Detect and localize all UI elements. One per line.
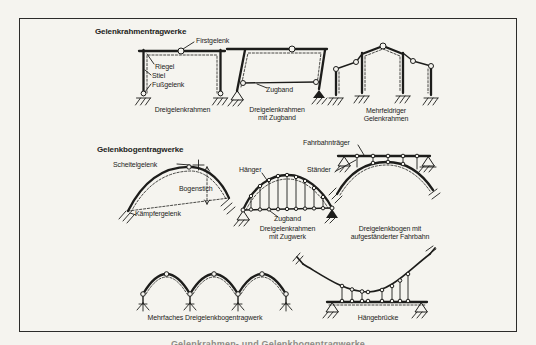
arch-members bbox=[243, 175, 332, 210]
roller-support bbox=[419, 157, 436, 172]
mehrfach-bogen-caption: Mehrfaches Dreigelenkbogentragwerk bbox=[127, 314, 283, 322]
cropped-figure-caption: Gelenkrahmen- und Gelenkbogentragwerke bbox=[0, 339, 536, 345]
support-hatch bbox=[136, 98, 228, 105]
frames-section-heading: Gelenkrahmentragwerke bbox=[95, 27, 186, 36]
deck-and-arch bbox=[337, 156, 433, 195]
scheitel-hinge bbox=[187, 165, 191, 169]
scanned-page: Gelenkrahmentragwerke Gelenkbogentragwer… bbox=[0, 0, 536, 345]
support-hatch bbox=[328, 96, 438, 105]
frame-members bbox=[336, 46, 431, 95]
stiel-label: Stiel bbox=[152, 72, 165, 79]
mehrfeldrig-drawing bbox=[328, 40, 445, 110]
hinge-circles bbox=[340, 272, 410, 303]
bogen-fahrbahn-caption: Dreigelenkbogen mit aufgeständerter Fahr… bbox=[340, 225, 440, 240]
caption-line: mit Zugwerk bbox=[243, 233, 332, 241]
hinge-circles bbox=[241, 46, 319, 86]
caption-line: Dreigelenkrahmen bbox=[243, 225, 332, 233]
pinned-support bbox=[323, 303, 338, 318]
mehrfach-bogen-drawing bbox=[136, 266, 300, 314]
caption-line: Mehrfeldriger bbox=[342, 107, 430, 115]
anchor-hatch bbox=[293, 246, 436, 264]
staender-label: Ständer bbox=[307, 166, 331, 173]
rahmen-zugband-caption: Dreigelenkrahmen mit Zugband bbox=[233, 106, 321, 121]
dreigelenkrahmen-caption: Dreigelenkrahmen bbox=[130, 106, 235, 114]
hangers bbox=[251, 175, 323, 209]
caption-line: Gelenkrahmen bbox=[342, 115, 430, 123]
hinge-circles bbox=[334, 43, 434, 72]
zugband-label-2: Zugband bbox=[274, 215, 301, 222]
arch-members bbox=[143, 274, 286, 294]
arches-section-heading: Gelenkbogentragwerke bbox=[97, 145, 183, 154]
caption-line: Dreigelenkrahmen bbox=[233, 106, 321, 114]
caption-line: Dreigelenkbogen mit bbox=[340, 225, 440, 233]
pinned-support bbox=[234, 211, 249, 226]
fussgelenk-label: Fußgelenk bbox=[152, 81, 184, 88]
fahrbahntraeger-label: Fahrbahnträger bbox=[303, 139, 350, 146]
bogen-fahrbahn-drawing bbox=[325, 138, 443, 212]
kaempfergelenk-label: Kämpfergelenk bbox=[135, 210, 181, 217]
haengebruecke-caption: Hängebrücke bbox=[342, 314, 414, 322]
cable bbox=[297, 248, 435, 292]
scheitelgelenk-label: Scheitelgelenk bbox=[113, 161, 157, 168]
caption-line: mit Zugband bbox=[233, 114, 321, 122]
haenger-label: Hänger bbox=[239, 166, 261, 173]
bogenstich-label: Bogenstich bbox=[179, 185, 213, 192]
haengebruecke-drawing bbox=[293, 246, 440, 318]
mehrfeldrig-caption: Mehrfeldriger Gelenkrahmen bbox=[342, 107, 430, 122]
leader-lines bbox=[336, 145, 364, 171]
springing-hatch bbox=[329, 188, 440, 203]
bogen-zugwerk-caption: Dreigelenkrahmen mit Zugwerk bbox=[243, 225, 332, 240]
zugband-label: Zugband bbox=[266, 86, 293, 93]
caption-line: aufgeständerter Fahrbahn bbox=[340, 233, 440, 241]
riegel-label: Riegel bbox=[155, 63, 174, 70]
fixed-support bbox=[312, 90, 327, 104]
piers bbox=[137, 295, 292, 311]
pinned-support bbox=[228, 91, 243, 106]
